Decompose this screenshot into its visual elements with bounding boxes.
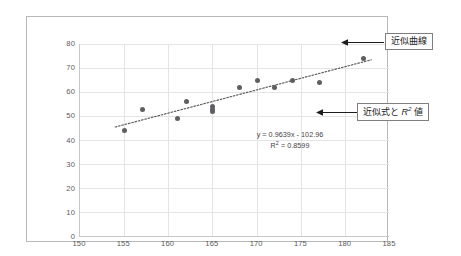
y-tick-label: 70 — [49, 64, 75, 72]
x-tick-label: 160 — [153, 240, 183, 248]
y-tick-label: 20 — [49, 185, 75, 193]
r-squared-value: = 0.8599 — [279, 142, 310, 151]
x-tick-label: 170 — [241, 240, 271, 248]
y-tick-label: 40 — [49, 137, 75, 145]
trendline-equation[interactable]: y = 0.9639x - 102.96 R2 = 0.8599 — [230, 130, 350, 152]
y-tick-label: 50 — [49, 113, 75, 121]
callout-formula-prefix: 近似式と — [363, 107, 402, 117]
data-point[interactable] — [290, 78, 295, 83]
x-tick-label: 185 — [374, 240, 404, 248]
data-point[interactable] — [361, 56, 366, 61]
y-tick-label: 10 — [49, 209, 75, 217]
data-point[interactable] — [184, 99, 189, 104]
x-tick-label: 180 — [330, 240, 360, 248]
data-point[interactable] — [237, 85, 242, 90]
y-tick-label: 60 — [49, 88, 75, 96]
chart-object[interactable]: 0 10 20 30 40 50 60 70 80 — [26, 16, 388, 242]
data-point[interactable] — [122, 128, 127, 133]
callout-curve-label[interactable]: 近似曲線 — [385, 33, 433, 50]
data-point[interactable] — [255, 78, 260, 83]
x-tick-label: 175 — [285, 240, 315, 248]
y-tick-label: 30 — [49, 161, 75, 169]
x-tick-label: 150 — [64, 240, 94, 248]
callout-curve-text: 近似曲線 — [391, 36, 427, 46]
callout-formula-suffix: 値 — [411, 107, 423, 117]
x-tick-label: 155 — [108, 240, 138, 248]
callout-formula-label[interactable]: 近似式と R2 値 — [357, 103, 429, 121]
screenshot-root: 0 10 20 30 40 50 60 70 80 — [0, 0, 461, 256]
y-axis-labels: 0 10 20 30 40 50 60 70 80 — [47, 44, 75, 237]
data-point[interactable] — [272, 85, 277, 90]
data-point[interactable] — [317, 80, 322, 85]
plot-area[interactable]: y = 0.9639x - 102.96 R2 = 0.8599 — [79, 44, 389, 237]
equation-line: y = 0.9639x - 102.96 — [230, 130, 350, 140]
x-tick-label: 165 — [197, 240, 227, 248]
x-axis-labels: 150 155 160 165 170 175 180 185 — [79, 240, 389, 254]
y-tick-label: 80 — [49, 40, 75, 48]
data-point[interactable] — [175, 116, 180, 121]
r-squared-line: R2 = 0.8599 — [230, 140, 350, 152]
data-point[interactable] — [140, 107, 145, 112]
